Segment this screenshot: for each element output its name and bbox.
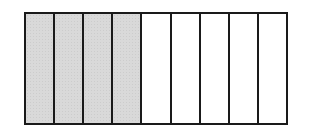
shaded-segment <box>26 14 53 123</box>
empty-segment <box>228 14 257 123</box>
empty-segment <box>199 14 228 123</box>
empty-segment <box>170 14 199 123</box>
empty-segment <box>257 14 286 123</box>
empty-segment <box>140 14 169 123</box>
shaded-segment <box>53 14 82 123</box>
shaded-segment <box>111 14 140 123</box>
fraction-bar <box>24 12 288 125</box>
shaded-segment <box>82 14 111 123</box>
